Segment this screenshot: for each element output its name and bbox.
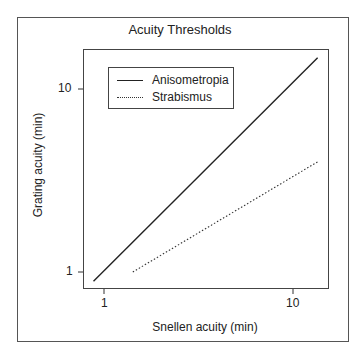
legend-item-anisometropia: Anisometropia — [109, 72, 229, 88]
y-tick-label-10: 10 — [58, 81, 71, 95]
legend: Anisometropia Strabismus — [108, 67, 234, 109]
y-tick-label-1: 1 — [66, 264, 73, 278]
series-strabismus — [133, 162, 318, 272]
plot-lines — [0, 0, 360, 360]
y-axis-label: Grating acuity (min) — [31, 113, 45, 218]
x-axis-label: Snellen acuity (min) — [0, 320, 360, 334]
x-tick-label-1: 1 — [101, 296, 108, 310]
solid-line-swatch-icon — [117, 80, 143, 81]
legend-item-strabismus: Strabismus — [109, 89, 212, 105]
x-tick-label-10: 10 — [286, 296, 299, 310]
legend-label: Anisometropia — [152, 73, 229, 87]
dotted-line-swatch-icon — [117, 97, 143, 98]
legend-label: Strabismus — [152, 90, 212, 104]
